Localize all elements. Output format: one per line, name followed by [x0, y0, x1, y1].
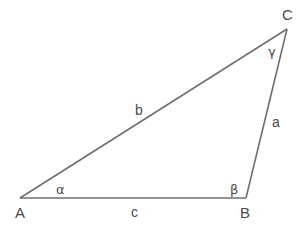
- angle-label-alpha: α: [56, 182, 65, 197]
- vertex-label-a: A: [15, 204, 25, 221]
- side-label-c: c: [131, 204, 138, 220]
- side-label-a: a: [272, 114, 280, 130]
- triangle-diagram: A B C a b c α β γ: [0, 0, 305, 227]
- vertex-label-c: C: [282, 6, 293, 23]
- angle-label-gamma: γ: [268, 44, 276, 59]
- side-b: [20, 29, 287, 198]
- angle-label-beta: β: [230, 182, 238, 197]
- vertex-label-b: B: [240, 204, 250, 221]
- side-a: [246, 29, 287, 198]
- side-label-b: b: [135, 102, 143, 118]
